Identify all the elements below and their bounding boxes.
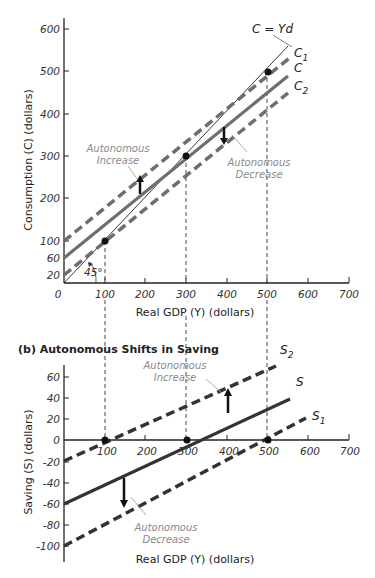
s-point-300 bbox=[184, 437, 191, 444]
bottom-x-axis-label: Real GDP (Y) (dollars) bbox=[136, 553, 255, 566]
point-100 bbox=[102, 238, 109, 245]
label-s2: S2 bbox=[280, 343, 294, 360]
y-tick-200: 200 bbox=[40, 192, 60, 204]
bottom-annotation-decrease-2: Decrease bbox=[142, 534, 189, 545]
bottom-annotation-decrease-1: Autonomous bbox=[133, 522, 197, 533]
s-y-tick-60: 60 bbox=[47, 371, 61, 383]
s-y-tick-neg100: -100 bbox=[36, 540, 60, 552]
top-annotation-increase-1: Autonomous bbox=[85, 143, 149, 154]
s-x-tick-400: 400 bbox=[219, 445, 239, 457]
bottom-annotation-increase-1: Autonomous bbox=[142, 360, 206, 371]
bottom-y-axis-label: Saving (S) (dollars) bbox=[22, 409, 35, 514]
consumption-chart: 600 500 400 300 200 100 60 20 0 100 200 … bbox=[22, 18, 359, 319]
top-x-axis-label: Real GDP (Y) (dollars) bbox=[136, 306, 255, 319]
s-x-tick-700: 700 bbox=[340, 445, 360, 457]
angle-label: 45° bbox=[84, 266, 103, 278]
label-s: S bbox=[296, 375, 304, 389]
s-x-tick-200: 200 bbox=[137, 445, 157, 457]
top-annotation-increase-2: Increase bbox=[97, 155, 140, 166]
label-c2: C2 bbox=[294, 79, 308, 96]
y-tick-500: 500 bbox=[40, 65, 60, 77]
x-tick-500: 500 bbox=[257, 288, 277, 300]
c2-line bbox=[64, 93, 288, 275]
saving-arrow-down-icon bbox=[120, 478, 128, 508]
point-300 bbox=[183, 153, 190, 160]
label-c: C bbox=[294, 61, 303, 75]
s-x-tick-100: 100 bbox=[97, 445, 117, 457]
y-tick-60: 60 bbox=[47, 252, 61, 264]
s-y-tick-neg60: -60 bbox=[43, 498, 60, 510]
label-c-yd: C = Yd bbox=[252, 22, 293, 36]
s-y-tick-20: 20 bbox=[47, 413, 61, 425]
s-y-tick-neg80: -80 bbox=[43, 519, 60, 531]
x-tick-100: 100 bbox=[95, 288, 115, 300]
y-tick-300: 300 bbox=[40, 150, 60, 162]
chart-canvas: 600 500 400 300 200 100 60 20 0 100 200 … bbox=[0, 0, 375, 578]
s-x-tick-500: 500 bbox=[259, 445, 279, 457]
y-tick-400: 400 bbox=[40, 108, 60, 120]
point-500 bbox=[265, 69, 272, 76]
s-point-500 bbox=[265, 437, 272, 444]
s-point-100 bbox=[102, 437, 109, 444]
top-annotation-decrease-2: Decrease bbox=[235, 169, 282, 180]
s-y-tick-neg40: -40 bbox=[43, 477, 60, 489]
saving-arrow-up-icon bbox=[224, 388, 232, 413]
x-tick-400: 400 bbox=[217, 288, 237, 300]
s-y-tick-40: 40 bbox=[47, 392, 61, 404]
bottom-annotation-increase-2: Increase bbox=[154, 372, 197, 383]
x-tick-200: 200 bbox=[135, 288, 155, 300]
x-tick-600: 600 bbox=[298, 288, 318, 300]
top-annotation-decrease-1: Autonomous bbox=[226, 157, 290, 168]
x-tick-0: 0 bbox=[55, 288, 62, 300]
s-y-tick-neg20: -20 bbox=[43, 456, 60, 468]
y-tick-600: 600 bbox=[40, 23, 60, 35]
saving-chart-title: (b) Autonomous Shifts in Saving bbox=[18, 343, 219, 356]
label-s1: S1 bbox=[312, 409, 325, 426]
x-tick-300: 300 bbox=[176, 288, 196, 300]
y-tick-20: 20 bbox=[47, 269, 61, 281]
x-tick-700: 700 bbox=[339, 288, 359, 300]
s-x-tick-600: 600 bbox=[300, 445, 320, 457]
y-tick-100: 100 bbox=[40, 235, 60, 247]
s-y-tick-0: 0 bbox=[53, 434, 60, 446]
top-y-axis-label: Consumption (C) (dollars) bbox=[22, 89, 35, 231]
saving-chart: (b) Autonomous Shifts in Saving 60 40 bbox=[18, 300, 360, 566]
